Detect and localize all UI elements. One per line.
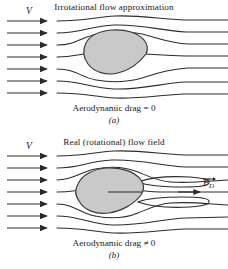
drag-force-subscript: D — [209, 182, 214, 190]
panel-irrotational-flow: Irrotational flow approximation V — [0, 0, 228, 134]
panel-b-sublabel: (b) — [0, 250, 228, 260]
fluid-flow-figure: Irrotational flow approximation V — [0, 0, 228, 269]
panel-b-caption: Aerodynamic drag ≠ 0 — [0, 238, 228, 249]
streamline — [57, 93, 228, 98]
streamline — [57, 228, 228, 233]
streamline — [57, 216, 228, 225]
streamline — [57, 25, 228, 33]
streamline — [57, 81, 228, 89]
panel-real-flow: Real (rotational) flow field V — [0, 134, 228, 269]
body-shape — [84, 30, 147, 74]
panel-a-caption: Aerodynamic drag = 0 — [0, 103, 228, 114]
panel-a-sublabel: (a) — [0, 115, 228, 125]
streamline — [57, 151, 228, 156]
wake-loop-lower — [138, 197, 209, 207]
streamline — [57, 16, 228, 21]
streamline — [57, 160, 228, 168]
vector-arrow-icon — [203, 176, 216, 181]
drag-force-label: FD — [203, 177, 214, 192]
streamline — [57, 68, 228, 82]
body-shape — [76, 168, 144, 214]
